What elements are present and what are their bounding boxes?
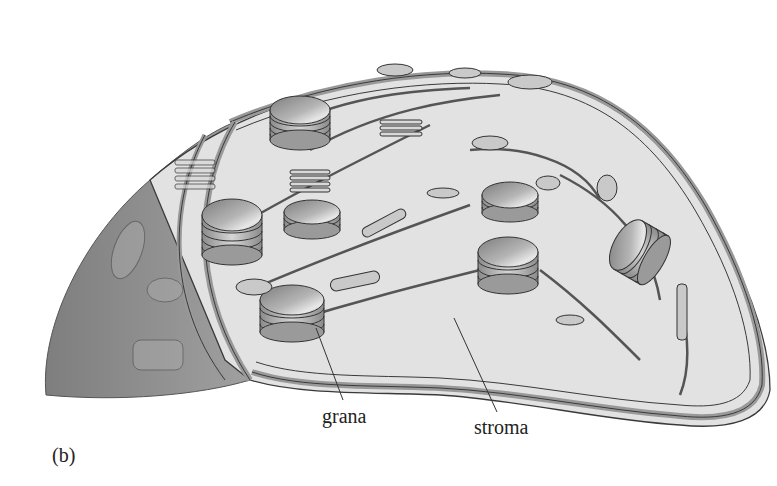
label-stroma: stroma [474, 417, 528, 437]
label-grana: grana [322, 406, 366, 426]
panel-label: (b) [52, 445, 75, 465]
chloroplast-diagram [0, 0, 777, 486]
